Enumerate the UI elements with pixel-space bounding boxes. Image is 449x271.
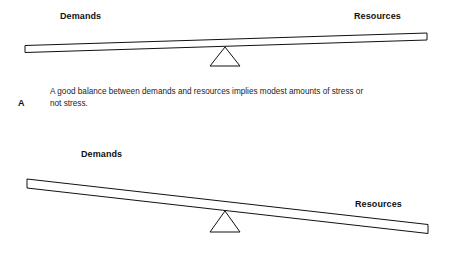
- panel-letter-a: A: [18, 98, 25, 108]
- panel-caption-a: A good balance between demands and resou…: [50, 86, 370, 109]
- seesaw-b-left-label: Demands: [81, 149, 122, 160]
- seesaw-figure: [0, 0, 449, 271]
- seesaw-a-left-label: Demands: [60, 11, 101, 22]
- seesaw-a-right-label: Resources: [354, 11, 401, 22]
- seesaw-b-right-label: Resources: [355, 199, 402, 210]
